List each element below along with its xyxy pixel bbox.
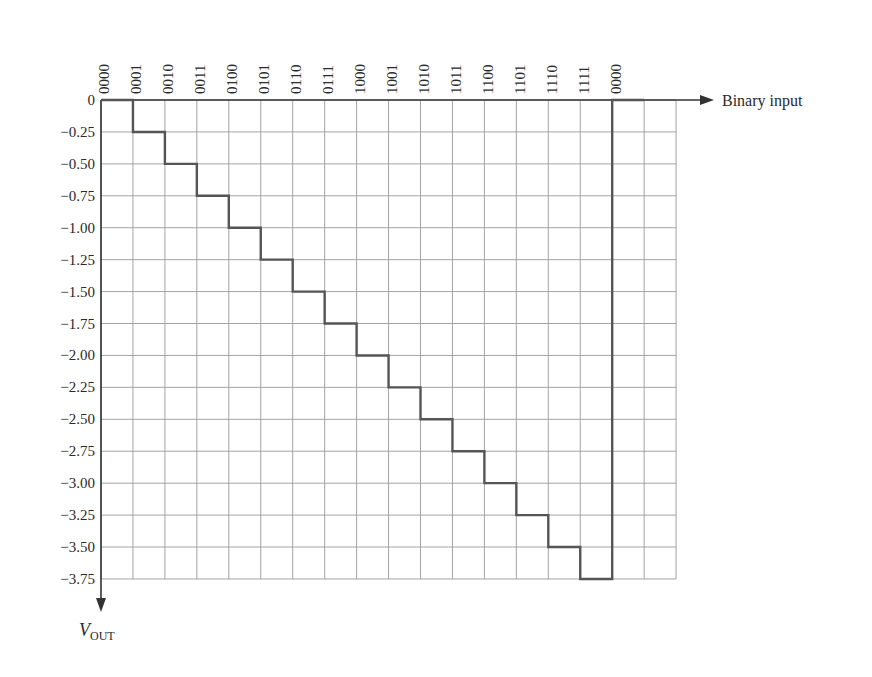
y-tick-label: −2.75 [60, 443, 95, 459]
y-tick-label: −2.00 [60, 347, 95, 363]
y-tick-label: −3.75 [60, 571, 95, 587]
y-tick-label: −1.50 [60, 284, 95, 300]
x-tick-label: 0011 [192, 65, 208, 94]
x-tick-label: 0000 [608, 64, 624, 94]
y-axis-arrow-icon [96, 598, 106, 612]
axes [96, 95, 714, 612]
x-tick-label: 0001 [128, 64, 144, 94]
x-tick-label: 0110 [288, 65, 304, 94]
x-tick-label: 1001 [384, 64, 400, 94]
x-tick-label: 1000 [352, 64, 368, 94]
x-tick-label: 0000 [96, 64, 112, 94]
y-tick-label: −0.75 [60, 188, 95, 204]
y-tick-label: −3.25 [60, 507, 95, 523]
y-tick-label: −2.25 [60, 379, 95, 395]
x-tick-label: 0101 [256, 64, 272, 94]
y-tick-label: −2.50 [60, 411, 95, 427]
dac-staircase-chart: 0000000100100011010001010110011110001001… [0, 0, 872, 677]
y-tick-label: −1.75 [60, 316, 95, 332]
x-tick-label: 1101 [512, 65, 528, 94]
x-tick-label: 0100 [224, 64, 240, 94]
x-axis-arrow-icon [700, 95, 714, 105]
x-axis-title: Binary input [722, 92, 803, 110]
x-tick-label: 1010 [416, 64, 432, 94]
y-tick-label: −1.00 [60, 220, 95, 236]
step-series-line [101, 100, 644, 579]
y-axis-title: VOUT [79, 620, 115, 643]
x-tick-labels: 0000000100100011010001010110011110001001… [96, 64, 623, 94]
x-tick-label: 1011 [448, 65, 464, 94]
y-axis-title-sub: OUT [90, 629, 115, 643]
x-tick-label: 0010 [160, 64, 176, 94]
y-tick-label: 0 [88, 92, 96, 108]
y-tick-label: −0.25 [60, 124, 95, 140]
x-tick-label: 1100 [480, 65, 496, 94]
y-tick-label: −1.25 [60, 252, 95, 268]
y-tick-labels: 0−0.25−0.50−0.75−1.00−1.25−1.50−1.75−2.0… [60, 92, 95, 587]
y-tick-label: −3.00 [60, 475, 95, 491]
x-tick-label: 0111 [320, 65, 336, 94]
y-tick-label: −0.50 [60, 156, 95, 172]
x-tick-label: 1111 [576, 66, 592, 94]
y-tick-label: −3.50 [60, 539, 95, 555]
x-tick-label: 1110 [544, 65, 560, 94]
grid-lines [101, 100, 676, 579]
